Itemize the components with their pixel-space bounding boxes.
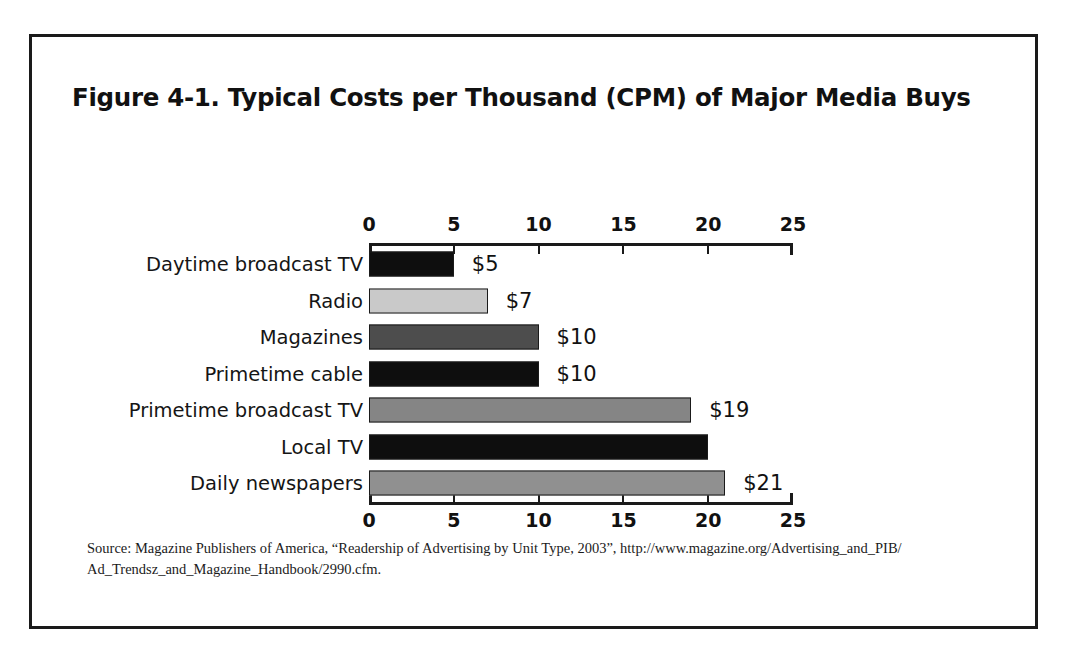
bar <box>369 434 708 459</box>
axis-tick-label: 0 <box>362 213 375 235</box>
bar-category-label: Local TV <box>281 435 363 458</box>
bar-row: Daytime broadcast TV$5 <box>32 246 1035 283</box>
bar-row: Local TV <box>32 429 1035 466</box>
bar-category-label: Radio <box>308 289 363 312</box>
bar <box>369 398 691 423</box>
axis-tick-label: 25 <box>780 509 806 531</box>
source-note: Source: Magazine Publishers of America, … <box>87 538 987 580</box>
bar-row: Daily newspapers$21 <box>32 465 1035 502</box>
page-title: Figure 4-1. Typical Costs per Thousand (… <box>72 83 971 112</box>
bar-category-label: Primetime broadcast TV <box>129 399 363 422</box>
bar-value-label: $10 <box>557 325 597 349</box>
bar-value-label: $10 <box>557 362 597 386</box>
axis-tick-label: 0 <box>362 509 375 531</box>
axis-tick-label: 10 <box>525 213 551 235</box>
bar-value-label: $19 <box>709 398 749 422</box>
axis-tick-label: 20 <box>695 213 721 235</box>
source-note-line-1: Source: Magazine Publishers of America, … <box>87 540 902 556</box>
bar <box>369 325 539 350</box>
source-note-line-2: Ad_Trendsz_and_Magazine_Handbook/2990.cf… <box>87 559 987 580</box>
bar-row: Radio$7 <box>32 283 1035 320</box>
bar-category-label: Primetime cable <box>204 362 363 385</box>
bar <box>369 471 725 496</box>
bar-row: Magazines$10 <box>32 319 1035 356</box>
axis-tick-label: 25 <box>780 213 806 235</box>
axis-tick-label: 20 <box>695 509 721 531</box>
axis-tick-label: 5 <box>447 213 460 235</box>
bar-value-label: $7 <box>506 289 533 313</box>
bar <box>369 288 488 313</box>
axis-tick-label: 5 <box>447 509 460 531</box>
bar <box>369 252 454 277</box>
bar-value-label: $21 <box>743 471 783 495</box>
bar-rows: Daytime broadcast TV$5Radio$7Magazines$1… <box>32 246 1035 502</box>
bar-row: Primetime cable$10 <box>32 356 1035 393</box>
bar-category-label: Daytime broadcast TV <box>146 253 363 276</box>
bar-row: Primetime broadcast TV$19 <box>32 392 1035 429</box>
axis-tick-label: 15 <box>610 213 636 235</box>
bar-category-label: Magazines <box>260 326 363 349</box>
axis-tick-label: 10 <box>525 509 551 531</box>
bar-category-label: Daily newspapers <box>190 472 363 495</box>
bar-value-label: $5 <box>472 252 499 276</box>
bar-chart: 0510152025 0510152025 Daytime broadcast … <box>32 147 1035 517</box>
axis-line-bottom <box>369 502 793 505</box>
axis-tick-label: 15 <box>610 509 636 531</box>
figure-frame: Figure 4-1. Typical Costs per Thousand (… <box>29 34 1038 629</box>
bar <box>369 361 539 386</box>
